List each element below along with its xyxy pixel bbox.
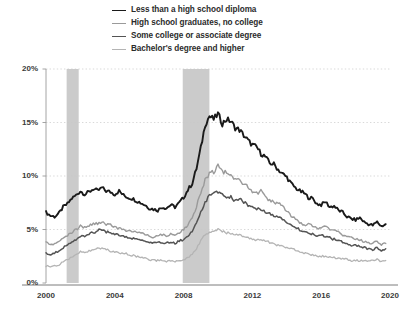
plot-area xyxy=(0,0,407,310)
chart-figure: Less than a high school diploma High sch… xyxy=(0,0,407,310)
x-axis-tick-label: 2000 xyxy=(26,292,66,300)
y-axis-tick-label: 5% xyxy=(8,226,38,234)
y-axis-tick-label: 0% xyxy=(8,279,38,287)
series-line xyxy=(46,229,386,267)
x-axis-tick-label: 2004 xyxy=(95,292,135,300)
x-axis-tick-label: 2012 xyxy=(232,292,272,300)
x-axis-tick-label: 2016 xyxy=(301,292,341,300)
x-axis-tick-label: 2020 xyxy=(370,292,407,300)
y-axis-tick-label: 10% xyxy=(8,172,38,180)
y-axis-tick-label: 15% xyxy=(8,119,38,127)
x-axis-tick-label: 2008 xyxy=(164,292,204,300)
y-axis-tick-label: 20% xyxy=(8,65,38,73)
